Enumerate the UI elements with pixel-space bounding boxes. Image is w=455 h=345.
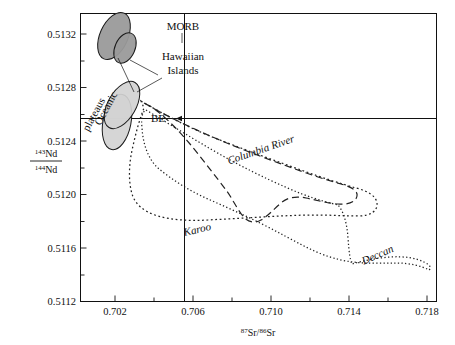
leader-hawaiian-a (130, 60, 158, 75)
y-tick-label: 0.5112 (48, 296, 77, 307)
x-tick-label: 0.710 (259, 306, 283, 317)
annotation-hawaiian-islands-line1: Hawaiian (162, 50, 205, 62)
isotope-plot-figure: 0.5112 0.5116 0.5120 0.5124 0.5128 0.513… (0, 0, 455, 345)
annotation-hawaiian-islands-line2: Islands (167, 64, 198, 76)
y-axis-title-numerator-base: Nd (45, 148, 57, 159)
y-axis-title-numerator: 143Nd (35, 148, 58, 159)
y-tick-label: 0.5116 (48, 243, 77, 254)
x-tick-label: 0.706 (181, 306, 205, 317)
leader-hawaiian-b (137, 78, 162, 92)
y-axis-title-denominator-sup: 144 (35, 164, 46, 172)
y-axis-ticks (81, 34, 87, 302)
x-tick-label: 0.714 (337, 306, 361, 317)
y-axis-title: 143Nd 144Nd (30, 148, 62, 175)
y-tick-label: 0.5128 (47, 82, 76, 93)
x-axis-title-base-sr2: Sr (266, 327, 276, 338)
y-tick-label: 0.5124 (47, 136, 77, 147)
x-axis-tick-labels: 0.702 0.706 0.710 0.714 0.718 (103, 306, 439, 317)
y-axis-title-denominator: 144Nd (35, 164, 58, 175)
x-tick-label: 0.718 (415, 306, 439, 317)
x-axis-ticks (115, 296, 427, 302)
x-tick-label: 0.702 (103, 306, 127, 317)
y-tick-label: 0.5132 (47, 29, 76, 40)
annotation-morb: MORB (167, 20, 199, 32)
y-axis-title-denominator-base: Nd (45, 164, 57, 175)
x-axis-title-base-sr: Sr/ (248, 327, 260, 338)
x-axis-title: 87Sr/86Sr (241, 327, 276, 339)
annotation-columbia-river: Columbia River (226, 132, 297, 166)
y-tick-label: 0.5120 (47, 189, 76, 200)
y-axis-title-numerator-sup: 143 (35, 148, 46, 156)
plot-canvas: 0.5112 0.5116 0.5120 0.5124 0.5128 0.513… (0, 0, 455, 345)
annotation-karoo: Karoo (181, 220, 212, 238)
